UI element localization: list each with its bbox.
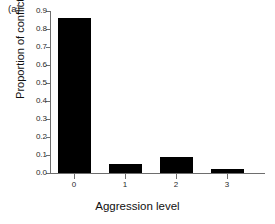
y-tick-label: 0.4 [36, 97, 47, 105]
bar [211, 169, 244, 173]
x-axis-line [50, 173, 265, 174]
y-tick-label: 0.7 [36, 43, 47, 51]
x-tick-label: 2 [166, 181, 186, 189]
figure-panel-a: (a) Proportion of conflicts 0.00.10.20.3… [0, 0, 275, 224]
y-axis-title: Proportion of conflicts [14, 0, 26, 121]
bar [58, 18, 91, 173]
y-tick-label: 0.6 [36, 61, 47, 69]
y-tick-label: 0.8 [36, 25, 47, 33]
x-tick-label: 1 [115, 181, 135, 189]
x-tick [176, 174, 177, 179]
y-tick-label: 0.3 [36, 115, 47, 123]
x-tick-label: 0 [64, 181, 84, 189]
x-tick [74, 174, 75, 179]
y-tick-label: 0.1 [36, 151, 47, 159]
y-tick-label: 0.2 [36, 133, 47, 141]
x-tick [227, 174, 228, 179]
y-tick-label: 0.9 [36, 7, 47, 15]
x-axis-title: Aggression level [0, 200, 275, 212]
x-tick-label: 3 [217, 181, 237, 189]
plot-area: 0.00.10.20.30.40.50.60.70.80.9 0123 [50, 11, 265, 173]
bar [109, 164, 142, 173]
y-tick-label: 0.5 [36, 79, 47, 87]
x-tick [125, 174, 126, 179]
bar [160, 157, 193, 173]
y-axis-line [50, 11, 51, 173]
y-tick-label: 0.0 [36, 169, 47, 177]
